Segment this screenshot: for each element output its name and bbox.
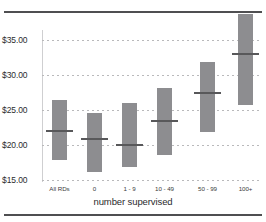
bar-100-plus xyxy=(238,14,253,105)
bar-0 xyxy=(87,113,102,172)
bar-50-99 xyxy=(200,62,215,132)
median-line-1-9 xyxy=(116,144,143,146)
x-tick-label-100-plus: 100+ xyxy=(224,185,266,192)
gridline-30 xyxy=(42,75,260,76)
median-line-50-99 xyxy=(194,92,221,94)
y-tick-label-15: $15.00 xyxy=(2,176,40,185)
gridline-25 xyxy=(42,110,260,111)
median-line-0 xyxy=(81,138,108,140)
y-tick-label-35: $35.00 xyxy=(2,36,40,45)
y-tick-label-25: $25.00 xyxy=(2,106,40,115)
gridline-35 xyxy=(42,40,260,41)
figure-bottom-rule xyxy=(4,214,262,216)
y-tick-label-20: $20.00 xyxy=(2,141,40,150)
median-line-all-rds xyxy=(46,130,73,132)
y-tick-label-30: $30.00 xyxy=(2,71,40,80)
median-line-100-plus xyxy=(232,53,259,55)
gridline-20 xyxy=(42,145,260,146)
figure-top-rule xyxy=(4,11,262,13)
wage-range-chart: $35.00 $30.00 $25.00 $20.00 $15.00 All R… xyxy=(0,0,266,222)
plot-area xyxy=(42,30,260,182)
median-line-10-49 xyxy=(151,120,178,122)
x-tick-label-50-99: 50 - 99 xyxy=(186,185,229,192)
bar-1-9 xyxy=(122,103,137,167)
x-tick-label-10-49: 10 - 49 xyxy=(143,185,186,192)
x-axis-title: number supervised xyxy=(0,196,266,207)
gridline-15 xyxy=(42,180,260,181)
